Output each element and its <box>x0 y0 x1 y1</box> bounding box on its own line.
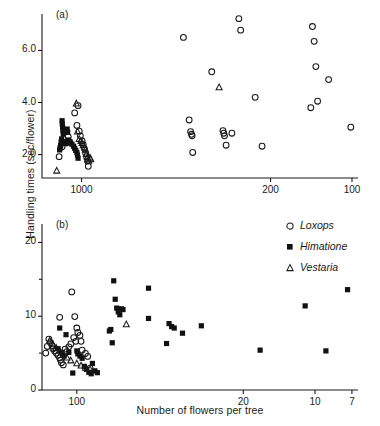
data-point-himatione <box>63 332 68 337</box>
scatter-plot-canvas <box>0 0 380 426</box>
data-point-himatione <box>146 286 151 291</box>
data-point-loxops <box>238 27 244 33</box>
data-point-vestaria <box>74 360 80 366</box>
data-point-loxops <box>348 124 354 130</box>
data-point-himatione <box>57 325 62 330</box>
data-point-himatione <box>90 361 95 366</box>
data-point-loxops <box>313 64 319 70</box>
data-point-loxops <box>56 154 62 160</box>
data-point-himatione <box>199 323 204 328</box>
data-point-loxops <box>236 16 242 22</box>
data-point-himatione <box>107 328 112 333</box>
data-point-himatione <box>345 287 350 292</box>
data-point-vestaria <box>54 167 60 173</box>
data-point-loxops <box>186 117 192 123</box>
data-point-loxops <box>181 35 187 41</box>
data-point-loxops <box>57 314 63 320</box>
data-point-himatione <box>146 316 151 321</box>
data-point-vestaria <box>216 84 222 90</box>
data-point-loxops <box>43 350 49 356</box>
data-point-himatione <box>113 297 118 302</box>
data-point-himatione <box>111 278 116 283</box>
data-point-loxops <box>209 69 215 75</box>
data-point-himatione <box>95 370 100 375</box>
data-point-loxops <box>315 98 321 104</box>
data-point-loxops <box>326 77 332 83</box>
data-point-loxops <box>229 130 235 136</box>
data-point-loxops <box>69 289 75 295</box>
data-point-loxops <box>308 105 314 111</box>
data-point-loxops <box>190 150 196 156</box>
data-point-himatione <box>164 341 169 346</box>
data-point-himatione <box>120 307 125 312</box>
data-point-himatione <box>117 312 122 317</box>
data-point-himatione <box>63 141 68 146</box>
data-point-himatione <box>258 348 263 353</box>
data-point-loxops <box>311 38 317 44</box>
data-point-loxops <box>72 314 78 320</box>
data-point-himatione <box>180 331 185 336</box>
data-point-vestaria <box>123 321 129 327</box>
data-point-loxops <box>223 142 229 148</box>
data-point-loxops <box>259 143 265 149</box>
data-point-loxops <box>72 110 78 116</box>
data-point-himatione <box>65 130 70 135</box>
data-point-himatione <box>323 348 328 353</box>
data-point-loxops <box>310 24 316 30</box>
data-point-himatione <box>57 147 62 152</box>
data-point-himatione <box>172 325 177 330</box>
data-point-himatione <box>80 356 85 361</box>
data-point-loxops <box>74 123 80 129</box>
handling-times-figure: Handling times (sec/flower) Number of fl… <box>0 0 380 426</box>
data-point-himatione <box>70 370 75 375</box>
data-point-himatione <box>110 340 115 345</box>
data-point-himatione <box>303 303 308 308</box>
data-point-loxops <box>252 94 258 100</box>
data-point-himatione <box>75 156 80 161</box>
